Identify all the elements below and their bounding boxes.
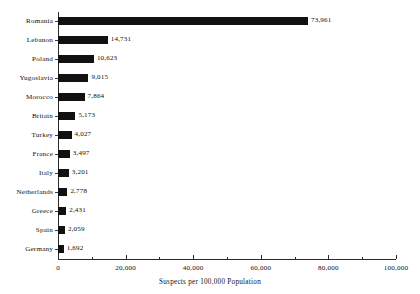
x-axis-minor-tick (92, 257, 93, 260)
x-axis-minor-tick (362, 257, 363, 260)
x-axis-major-tick (193, 255, 194, 259)
category-label: Germany (0, 244, 53, 254)
category-label: Romania (0, 16, 53, 26)
bar (58, 93, 85, 101)
bar (58, 74, 88, 82)
bar (58, 226, 65, 234)
bar (58, 17, 308, 25)
category-label: Turkey (0, 130, 53, 140)
x-axis-major-tick (126, 255, 127, 259)
x-axis-tick-label: 60,000 (250, 263, 271, 273)
category-label: Greece (0, 206, 53, 216)
bar-value-label: 2,778 (70, 186, 87, 196)
bar-row: Poland10,623 (58, 50, 396, 69)
bar-value-label: 1,692 (67, 243, 84, 253)
x-axis-major-tick (261, 255, 262, 259)
bar-value-label: 7,864 (88, 91, 105, 101)
x-axis-tick-label: 0 (56, 263, 60, 273)
x-axis-title: Suspects per 100,000 Population (0, 277, 420, 287)
category-label: Morocco (0, 92, 53, 102)
x-axis-tick-marks (58, 259, 396, 260)
bar-value-label: 2,431 (69, 205, 86, 215)
bar-value-label: 73,961 (311, 15, 331, 25)
bar-row: Italy3,201 (58, 164, 396, 183)
x-axis-tick-label: 100,000 (384, 263, 408, 273)
x-axis-tick-labels: 020,00040,00060,00080,000100,000 (58, 263, 396, 275)
bar-value-label: 5,173 (78, 110, 95, 120)
bar (58, 55, 94, 63)
bar-row: Lebanon14,731 (58, 31, 396, 50)
bar (58, 131, 72, 139)
category-label: Netherlands (0, 187, 53, 197)
bar (58, 169, 69, 177)
bar-row: Turkey4,027 (58, 126, 396, 145)
bar-row: Greece2,431 (58, 202, 396, 221)
category-label: France (0, 149, 53, 159)
plot-area: Romania73,961Lebanon14,731Poland10,623Yu… (58, 12, 396, 259)
bar-value-label: 9,015 (91, 72, 108, 82)
x-axis-tick-label: 40,000 (183, 263, 204, 273)
bar (58, 36, 108, 44)
bar-chart: Romania73,961Lebanon14,731Poland10,623Yu… (0, 0, 420, 294)
category-label: Poland (0, 54, 53, 64)
bar (58, 150, 70, 158)
x-axis-major-tick (328, 255, 329, 259)
bar-value-label: 4,027 (75, 129, 92, 139)
bar-value-label: 2,059 (68, 224, 85, 234)
bar-row: Netherlands2,778 (58, 183, 396, 202)
x-axis-minor-tick (159, 257, 160, 260)
x-axis-tick-label: 20,000 (115, 263, 136, 273)
x-axis-major-tick (396, 255, 397, 259)
x-axis-minor-tick (295, 257, 296, 260)
bar-row: Britain5,173 (58, 107, 396, 126)
bar-value-label: 3,201 (72, 167, 89, 177)
bar-value-label: 14,731 (111, 34, 131, 44)
category-label: Italy (0, 168, 53, 178)
category-label: Lebanon (0, 35, 53, 45)
x-axis-tick-label: 80,000 (318, 263, 339, 273)
bar-value-label: 10,623 (97, 53, 117, 63)
bar-value-label: 3,497 (73, 148, 90, 158)
x-axis-major-tick (58, 255, 59, 259)
category-label: Yugoslavia (0, 73, 53, 83)
category-label: Spain (0, 225, 53, 235)
bar (58, 245, 64, 253)
bar (58, 112, 75, 120)
bar-row: France3,497 (58, 145, 396, 164)
bar-row: Spain2,059 (58, 221, 396, 240)
bar-row: Morocco7,864 (58, 88, 396, 107)
bar-row: Romania73,961 (58, 12, 396, 31)
x-axis-minor-tick (227, 257, 228, 260)
bar (58, 188, 67, 196)
bar (58, 207, 66, 215)
category-label: Britain (0, 111, 53, 121)
bar-row: Yugoslavia9,015 (58, 69, 396, 88)
